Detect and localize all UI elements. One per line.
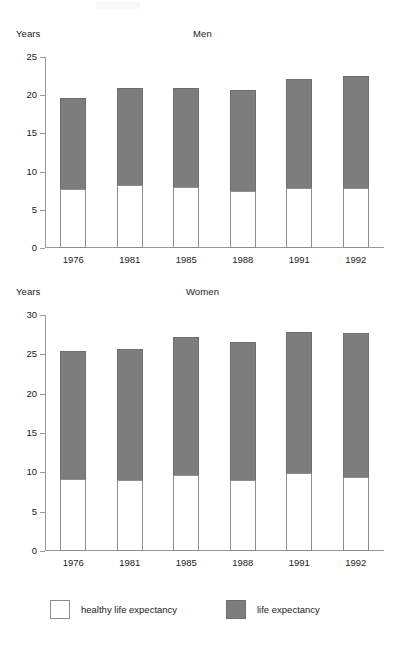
bar-women-1976[interactable] <box>60 351 86 551</box>
women-ytick <box>40 472 45 473</box>
men-ytick <box>40 248 45 249</box>
bar-segment-healthy-life-expectancy <box>173 187 199 248</box>
legend-item-life: life expectancy <box>226 600 320 619</box>
bar-segment-healthy-life-expectancy <box>286 188 312 248</box>
women-ytick-label: 0 <box>32 546 37 556</box>
chart-figure: Years Men 051015202519761981198519881991… <box>0 0 405 646</box>
men-ytick-label: 25 <box>26 52 37 62</box>
bar-segment-healthy-life-expectancy <box>343 188 369 248</box>
plot-area-women: 051015202530197619811985198819911992 <box>45 315 384 551</box>
women-ytick <box>40 394 45 395</box>
x-tick-label-1985: 1985 <box>161 255 211 265</box>
bar-men-1988[interactable] <box>230 90 256 248</box>
women-ytick <box>40 551 45 552</box>
y-axis-women <box>45 315 46 551</box>
panel-men-title: Men <box>0 28 405 39</box>
x-tick-label-1991: 1991 <box>274 255 324 265</box>
panel-women: Years Women 0510152025301976198119851988… <box>0 286 405 596</box>
bar-men-1991[interactable] <box>286 79 312 248</box>
legend-label-life: life expectancy <box>257 604 320 615</box>
bar-segment-healthy-life-expectancy <box>117 480 143 551</box>
x-tick-label-1988: 1988 <box>218 255 268 265</box>
x-tick-label-1988: 1988 <box>218 558 268 568</box>
bar-segment-healthy-life-expectancy <box>230 480 256 551</box>
men-ytick <box>40 95 45 96</box>
chart-legend: healthy life expectancy life expectancy <box>28 600 378 630</box>
y-axis-men <box>45 57 46 248</box>
bar-segment-healthy-life-expectancy <box>60 189 86 248</box>
x-axis-men <box>45 247 384 248</box>
men-ytick-label: 20 <box>26 90 37 100</box>
x-tick-label-1992: 1992 <box>331 255 381 265</box>
women-ytick-label: 15 <box>26 428 37 438</box>
x-tick-label-1981: 1981 <box>105 255 155 265</box>
x-tick-label-1992: 1992 <box>331 558 381 568</box>
women-ytick-label: 5 <box>32 507 37 517</box>
bar-men-1992[interactable] <box>343 76 369 248</box>
bar-women-1981[interactable] <box>117 349 143 551</box>
bar-segment-healthy-life-expectancy <box>286 473 312 551</box>
bar-men-1985[interactable] <box>173 88 199 248</box>
scan-artifact <box>96 2 140 9</box>
bar-women-1992[interactable] <box>343 333 369 551</box>
bar-men-1981[interactable] <box>117 88 143 248</box>
women-ytick-label: 20 <box>26 389 37 399</box>
x-axis-women <box>45 550 384 551</box>
legend-swatch-life-icon <box>226 600 246 619</box>
men-ytick <box>40 210 45 211</box>
men-ytick-label: 5 <box>32 205 37 215</box>
legend-swatch-healthy-icon <box>50 600 70 619</box>
panel-men: Years Men 051015202519761981198519881991… <box>0 28 405 298</box>
plot-area-men: 0510152025197619811985198819911992 <box>45 57 384 248</box>
men-ytick-label: 10 <box>26 167 37 177</box>
men-ytick <box>40 57 45 58</box>
women-ytick <box>40 433 45 434</box>
women-ytick <box>40 315 45 316</box>
bar-segment-healthy-life-expectancy <box>343 477 369 551</box>
bar-women-1985[interactable] <box>173 337 199 551</box>
legend-label-healthy: healthy life expectancy <box>81 604 177 615</box>
men-ytick <box>40 133 45 134</box>
men-ytick-label: 0 <box>32 243 37 253</box>
men-ytick <box>40 172 45 173</box>
bar-segment-healthy-life-expectancy <box>173 475 199 551</box>
women-ytick-label: 25 <box>26 350 37 360</box>
women-ytick <box>40 512 45 513</box>
women-ytick-label: 10 <box>26 468 37 478</box>
women-ytick-label: 30 <box>26 310 37 320</box>
bar-women-1988[interactable] <box>230 342 256 551</box>
bar-segment-healthy-life-expectancy <box>117 185 143 248</box>
x-tick-label-1976: 1976 <box>48 558 98 568</box>
legend-item-healthy: healthy life expectancy <box>50 600 177 619</box>
men-ytick-label: 15 <box>26 129 37 139</box>
x-tick-label-1991: 1991 <box>274 558 324 568</box>
bar-segment-healthy-life-expectancy <box>60 479 86 551</box>
women-ytick <box>40 354 45 355</box>
bar-men-1976[interactable] <box>60 98 86 249</box>
x-tick-label-1985: 1985 <box>161 558 211 568</box>
x-tick-label-1976: 1976 <box>48 255 98 265</box>
panel-women-title: Women <box>0 286 405 297</box>
x-tick-label-1981: 1981 <box>105 558 155 568</box>
bar-segment-healthy-life-expectancy <box>230 191 256 248</box>
bar-women-1991[interactable] <box>286 332 312 551</box>
